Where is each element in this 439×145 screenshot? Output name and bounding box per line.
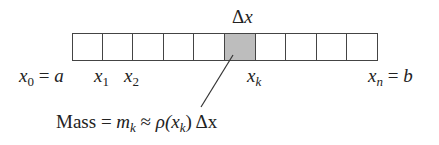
- mass-formula: Mass = mk ≈ ρ(xk) Δx: [56, 112, 217, 134]
- riemann-mass-diagram: Δx x0 = a x1 x2 xk xn = b Mass = mk ≈ ρ(…: [0, 0, 439, 145]
